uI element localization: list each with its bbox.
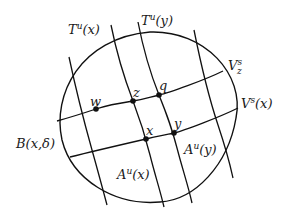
label-ball: B(x,δ) <box>16 137 55 150</box>
label-tu-x: Tu(x) <box>68 22 100 36</box>
label-point-y: y <box>174 117 181 130</box>
label-au-x: Au(x) <box>117 167 150 181</box>
label-vs-x: Vs(x) <box>241 96 273 110</box>
label-au-y: Au(y) <box>184 142 217 156</box>
point-y <box>171 130 177 136</box>
unstable-curve-left <box>69 57 107 205</box>
label-point-x: x <box>146 124 153 137</box>
label-point-w: w <box>90 95 101 108</box>
label-vz-s: Vsz <box>228 58 242 76</box>
label-point-q: q <box>159 79 167 92</box>
stable-curve-vz-s <box>57 71 223 121</box>
diagram-canvas: Tu(x) Tu(y) Vsz Vs(x) B(x,δ) Au(x) Au(y)… <box>0 0 291 220</box>
label-tu-y: Tu(y) <box>141 13 173 27</box>
point-q <box>156 92 162 98</box>
label-point-z: z <box>133 86 140 99</box>
